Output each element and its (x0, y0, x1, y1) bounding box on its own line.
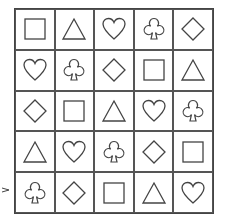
grid-cell (134, 172, 174, 213)
grid-cell (15, 9, 55, 50)
square-icon (140, 56, 168, 84)
grid-cell (173, 172, 213, 213)
grid-cell (94, 9, 134, 50)
grid-cell (55, 131, 95, 172)
grid-cell (15, 91, 55, 132)
triangle-icon (179, 56, 207, 84)
grid-cell (134, 9, 174, 50)
grid-cell (173, 91, 213, 132)
square-icon (100, 179, 128, 207)
grid-cell (94, 131, 134, 172)
grid-cell (15, 50, 55, 91)
grid-cell (173, 131, 213, 172)
grid-cell (55, 91, 95, 132)
square-icon (179, 138, 207, 166)
triangle-icon (100, 97, 128, 125)
grid-cell (134, 91, 174, 132)
diamond-icon (100, 56, 128, 84)
grid-cell (94, 91, 134, 132)
club-icon (140, 15, 168, 43)
heart-icon (179, 179, 207, 207)
grid-cell (173, 50, 213, 91)
heart-icon (60, 138, 88, 166)
arrow-right-icon (1, 186, 11, 194)
grid-cell (94, 172, 134, 213)
diamond-icon (179, 15, 207, 43)
club-icon (179, 97, 207, 125)
grid-cell (134, 50, 174, 91)
grid-cell (134, 131, 174, 172)
diamond-icon (21, 97, 49, 125)
grid-cell (173, 9, 213, 50)
triangle-icon (60, 15, 88, 43)
triangle-icon (21, 138, 49, 166)
club-icon (60, 56, 88, 84)
grid-cell (55, 172, 95, 213)
grid-cell (55, 9, 95, 50)
square-icon (60, 97, 88, 125)
square-icon (21, 15, 49, 43)
diamond-icon (60, 179, 88, 207)
grid-cell (55, 50, 95, 91)
club-icon (100, 138, 128, 166)
symbol-grid (14, 8, 214, 214)
heart-icon (140, 97, 168, 125)
grid-cell (15, 131, 55, 172)
club-icon (21, 179, 49, 207)
diamond-icon (140, 138, 168, 166)
triangle-icon (140, 179, 168, 207)
grid-cell (15, 172, 55, 213)
grid-cell (94, 50, 134, 91)
heart-icon (21, 56, 49, 84)
heart-icon (100, 15, 128, 43)
